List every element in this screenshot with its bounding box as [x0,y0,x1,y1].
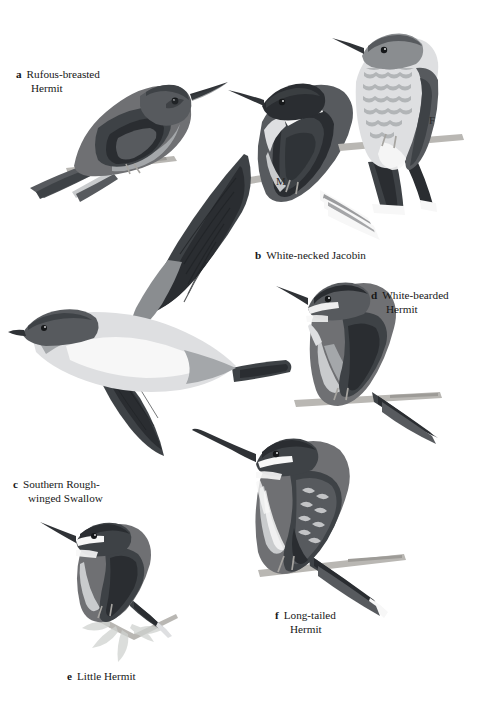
caption-d: dWhite-bearded Hermit [371,288,449,316]
figure-white-necked-jacobin-female [330,22,470,222]
caption-a-line2: Hermit [16,81,100,95]
figure-long-tailed-hermit [198,428,418,628]
field-guide-plate: aRufous-breasted Hermit [0,0,490,709]
caption-f: fLong-tailed Hermit [275,608,336,636]
caption-e: eLittle Hermit [67,669,136,683]
caption-f-line1: Long-tailed [284,609,336,621]
caption-c-line1: Southern Rough- [23,478,100,490]
caption-f-line2: Hermit [275,622,336,636]
caption-c: cSouthern Rough- winged Swallow [13,477,103,505]
caption-f-key: f [275,609,279,621]
caption-e-key: e [67,670,72,682]
caption-d-line2: Hermit [371,302,449,316]
caption-d-line1: White-bearded [382,289,448,301]
caption-a-line1: Rufous-breasted [27,68,100,80]
caption-e-line1: Little Hermit [77,670,136,682]
caption-c-line2: winged Swallow [13,491,103,505]
caption-a-key: a [16,68,22,80]
sex-mark-female: F [429,114,435,126]
caption-a: aRufous-breasted Hermit [16,67,100,95]
caption-c-key: c [13,478,18,490]
figure-little-hermit [42,518,217,673]
caption-d-key: d [371,289,377,301]
figure-southern-rough-winged-swallow [8,150,298,460]
